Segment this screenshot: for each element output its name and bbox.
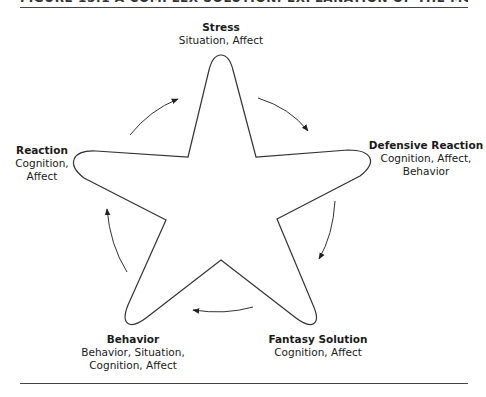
node-subtitle: Cognition, Affect: [268, 346, 368, 359]
node-subtitle: Behavior: [366, 165, 486, 178]
node-title: Reaction: [4, 144, 80, 157]
node-title: Defensive Reaction: [366, 139, 486, 152]
node-defensive-reaction: Defensive Reaction Cognition, Affect, Be…: [366, 139, 486, 178]
node-title: Fantasy Solution: [268, 333, 368, 346]
arrow-fantasy-to-behavior: [193, 307, 253, 312]
node-reaction: Reaction Cognition, Affect: [4, 144, 80, 183]
arrow-stress-to-defensive: [258, 98, 308, 131]
node-title: Stress: [165, 21, 277, 34]
node-fantasy-solution: Fantasy Solution Cognition, Affect: [268, 333, 368, 359]
node-subtitle: Situation, Affect: [165, 34, 277, 47]
node-behavior: Behavior Behavior, Situation, Cognition,…: [73, 333, 193, 372]
node-subtitle: Cognition, Affect,: [366, 152, 486, 165]
node-title: Behavior: [73, 333, 193, 346]
node-subtitle: Behavior, Situation,: [73, 346, 193, 359]
arrow-reaction-to-stress: [130, 99, 178, 135]
star-shape: [74, 55, 371, 324]
node-subtitle: Cognition,: [4, 157, 80, 170]
node-stress: Stress Situation, Affect: [165, 21, 277, 47]
node-subtitle: Affect: [4, 170, 80, 183]
arrow-behavior-to-reaction: [107, 209, 127, 272]
bottom-rule: [20, 383, 468, 384]
arrow-defensive-to-fantasy: [319, 201, 335, 259]
node-subtitle: Cognition, Affect: [73, 359, 193, 372]
